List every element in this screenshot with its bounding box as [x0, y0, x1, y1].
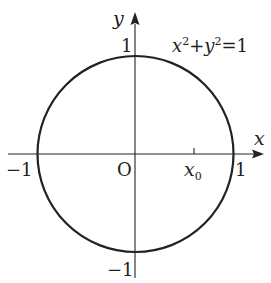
origin-label: O	[117, 159, 132, 180]
x-pos-one-label: 1	[235, 159, 246, 180]
x-axis-label: x	[254, 127, 265, 149]
x-neg-one-label: −1	[6, 159, 33, 180]
circle-equation: x2+y2=1	[172, 35, 248, 56]
x0-label: x0	[184, 158, 202, 183]
y-axis-arrow-icon	[131, 12, 140, 25]
y-axis-label: y	[112, 7, 124, 29]
unit-circle-diagram: x y O −1 1 1 −1 x0 x2+y2=1	[0, 0, 271, 283]
y-pos-one-label: 1	[121, 35, 132, 56]
y-neg-one-label: −1	[107, 259, 134, 280]
